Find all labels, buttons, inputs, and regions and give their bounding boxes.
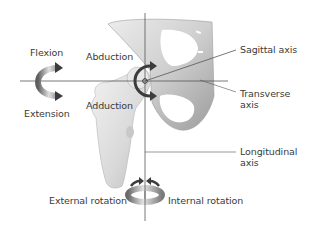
transverse-axis-label-line2: axis bbox=[240, 99, 259, 110]
longitudinal-axis-label-line2: axis bbox=[240, 157, 259, 168]
hip-axes-diagram: Flexion Extension Abduction Adduction Sa… bbox=[0, 0, 315, 230]
extension-label: Extension bbox=[24, 108, 70, 119]
flexion-extension-arrow-icon bbox=[38, 62, 63, 101]
internal-rotation-label: Internal rotation bbox=[168, 195, 243, 206]
sagittal-axis-label: Sagittal axis bbox=[240, 44, 297, 55]
flexion-label: Flexion bbox=[30, 47, 63, 58]
transverse-axis-label-line1: Transverse bbox=[240, 88, 290, 99]
external-rotation-label: External rotation bbox=[49, 195, 127, 206]
abduction-label: Abduction bbox=[86, 51, 133, 62]
adduction-label: Adduction bbox=[86, 100, 133, 111]
femur-illustration bbox=[92, 67, 151, 188]
longitudinal-axis-label-line1: Longitudinal bbox=[240, 146, 297, 157]
